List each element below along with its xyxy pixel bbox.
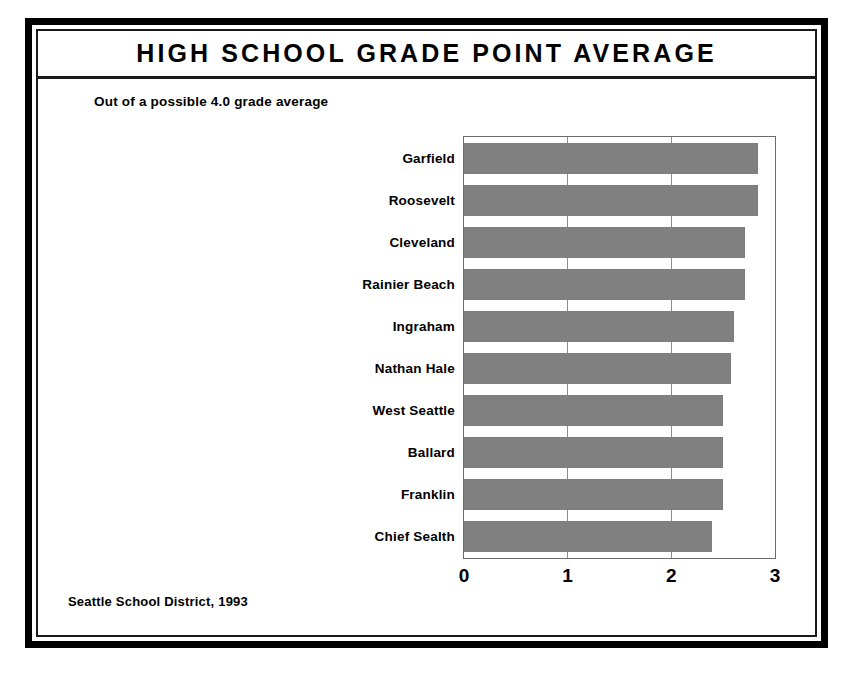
plot-area: GarfieldRooseveltClevelandRainier BeachI… xyxy=(463,136,776,559)
category-label: Franklin xyxy=(401,487,455,502)
bar-row: Ballard xyxy=(464,432,775,474)
category-label: Rainier Beach xyxy=(362,277,455,292)
bar-row: Nathan Hale xyxy=(464,348,775,390)
bar xyxy=(464,353,731,384)
bar xyxy=(464,269,745,300)
x-tick-label: 1 xyxy=(562,565,573,587)
bar xyxy=(464,479,723,510)
bar-row: Ingraham xyxy=(464,305,775,347)
bar xyxy=(464,227,745,258)
bar-row: Roosevelt xyxy=(464,179,775,221)
bar-row: West Seattle xyxy=(464,390,775,432)
bar-row: Franklin xyxy=(464,474,775,516)
plot-wrapper: GarfieldRooseveltClevelandRainier BeachI… xyxy=(38,31,815,635)
bar xyxy=(464,437,723,468)
source-note: Seattle School District, 1993 xyxy=(68,594,248,609)
category-label: Cleveland xyxy=(389,235,455,250)
chart-figure: HIGH SCHOOL GRADE POINT AVERAGE Out of a… xyxy=(25,18,828,648)
category-label: Garfield xyxy=(402,151,455,166)
bar xyxy=(464,311,734,342)
bar xyxy=(464,395,723,426)
category-label: Chief Sealth xyxy=(375,529,455,544)
bar-row: Garfield xyxy=(464,137,775,179)
category-label: Ingraham xyxy=(393,319,455,334)
chart-inner-frame: HIGH SCHOOL GRADE POINT AVERAGE Out of a… xyxy=(36,29,817,637)
category-label: Roosevelt xyxy=(389,193,455,208)
category-label: Nathan Hale xyxy=(375,361,455,376)
bar xyxy=(464,521,712,552)
bar-row: Rainier Beach xyxy=(464,263,775,305)
x-tick-label: 3 xyxy=(770,565,781,587)
category-label: West Seattle xyxy=(373,403,455,418)
bar xyxy=(464,185,758,216)
category-label: Ballard xyxy=(408,445,455,460)
x-tick-label: 0 xyxy=(459,565,470,587)
bar xyxy=(464,143,758,174)
bar-row: Cleveland xyxy=(464,221,775,263)
bar-row: Chief Sealth xyxy=(464,516,775,558)
x-tick-label: 2 xyxy=(666,565,677,587)
